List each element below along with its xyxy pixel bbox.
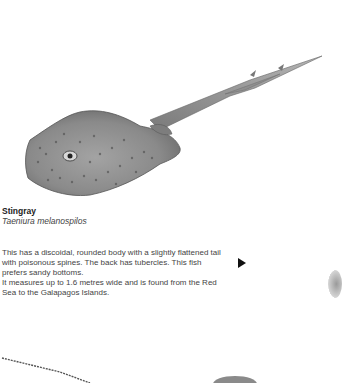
description-paragraph: This has a discoidal, rounded body with … <box>2 248 227 278</box>
next-creature-preview <box>328 270 342 298</box>
bottom-creature-preview <box>0 350 337 383</box>
play-triangle-icon[interactable] <box>238 258 246 268</box>
description-paragraph: It measures up to 1.6 metres wide and is… <box>2 278 227 298</box>
species-title-block: Stingray Taeniura melanospilos <box>2 206 87 226</box>
latin-name: Taeniura melanospilos <box>2 216 87 226</box>
species-description: This has a discoidal, rounded body with … <box>2 248 227 298</box>
common-name: Stingray <box>2 206 87 216</box>
stingray-illustration <box>0 30 337 210</box>
